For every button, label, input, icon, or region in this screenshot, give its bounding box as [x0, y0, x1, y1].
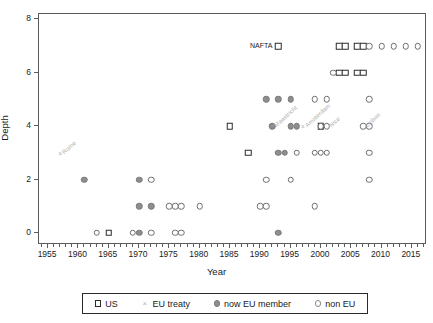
data-point-nonue [366, 96, 373, 103]
data-point-us [275, 43, 282, 50]
data-point-nonue [263, 176, 270, 183]
x-axis-tick-label: 1965 [98, 249, 117, 259]
x-axis-minor-tick [53, 244, 54, 247]
x-axis-minor-tick [223, 244, 224, 247]
x-axis-tick-label: 2010 [371, 249, 390, 259]
x-axis-minor-tick [144, 244, 145, 247]
x-axis-minor-tick [120, 244, 121, 247]
x-axis-minor-tick [132, 244, 133, 247]
y-axis-tick [34, 232, 38, 233]
data-point-nonue [390, 43, 397, 50]
x-axis-tick-label: 2000 [310, 249, 329, 259]
x-axis-tick [411, 244, 412, 248]
x-axis-minor-tick [253, 244, 254, 247]
x-axis-tick-label: 2015 [401, 249, 420, 259]
y-axis-title: Depth [0, 115, 10, 140]
y-axis-tick-label: 0 [26, 227, 31, 237]
x-axis-minor-tick [271, 244, 272, 247]
x-axis-minor-tick [65, 244, 66, 247]
x-axis-tick-label: 1975 [159, 249, 178, 259]
legend-item-us: US [95, 299, 118, 309]
x-axis-minor-tick [265, 244, 266, 247]
data-point-nonue [287, 176, 294, 183]
data-point-nonue [312, 96, 319, 103]
y-axis-tick [34, 179, 38, 180]
x-axis-tick [350, 244, 351, 248]
x-axis-minor-tick [393, 244, 394, 247]
legend-marker-cross-icon [141, 300, 148, 307]
legend-item-nonue: non EU [315, 299, 356, 309]
annotation-nafta: NAFTA [250, 42, 272, 49]
y-axis-tick [34, 125, 38, 126]
data-point-nonue [148, 230, 155, 237]
x-axis-tick [47, 244, 48, 248]
x-axis-minor-tick [356, 244, 357, 247]
x-axis-minor-tick [205, 244, 206, 247]
x-axis-tick [381, 244, 382, 248]
data-point-nonue [378, 43, 385, 50]
data-point-eumem [287, 96, 294, 103]
y-axis-tick [34, 72, 38, 73]
x-axis-minor-tick [374, 244, 375, 247]
x-axis-minor-tick [417, 244, 418, 247]
x-axis-minor-tick [156, 244, 157, 247]
x-axis-minor-tick [338, 244, 339, 247]
x-axis-minor-tick [399, 244, 400, 247]
x-axis-tick-label: 1990 [250, 249, 269, 259]
x-axis-minor-tick [102, 244, 103, 247]
legend-marker-open-circle-icon [315, 300, 322, 307]
data-point-nonue [366, 150, 373, 157]
data-point-us [105, 230, 112, 237]
data-point-nonue [148, 176, 155, 183]
x-axis-title: Year [0, 266, 433, 277]
x-axis-minor-tick [211, 244, 212, 247]
x-axis-tick [138, 244, 139, 248]
y-axis-tick-label: 6 [26, 67, 31, 77]
x-axis-minor-tick [241, 244, 242, 247]
scatter-plot-figure: Depth Year 19551960196519701975198019851… [0, 0, 433, 323]
legend-item-treaty: EU treaty [141, 299, 190, 309]
data-point-nonue [403, 43, 410, 50]
x-axis-minor-tick [90, 244, 91, 247]
y-axis-tick [34, 18, 38, 19]
data-point-nonue [178, 230, 185, 237]
x-axis-minor-tick [83, 244, 84, 247]
x-axis-minor-tick [126, 244, 127, 247]
data-point-nonue [324, 150, 331, 157]
x-axis-minor-tick [71, 244, 72, 247]
x-axis-minor-tick [405, 244, 406, 247]
x-axis-minor-tick [368, 244, 369, 247]
x-axis-tick-label: 1960 [68, 249, 87, 259]
x-axis-tick [290, 244, 291, 248]
plot-area [38, 13, 426, 244]
data-point-nonue [130, 230, 137, 237]
x-axis-minor-tick [387, 244, 388, 247]
x-axis-tick [77, 244, 78, 248]
data-point-us [227, 123, 234, 130]
x-axis-tick [199, 244, 200, 248]
x-axis-tick-label: 1955 [38, 249, 57, 259]
data-point-eumem [136, 176, 143, 183]
data-point-nonue [366, 176, 373, 183]
x-axis-tick-label: 1985 [220, 249, 239, 259]
legend-label: now EU member [224, 299, 291, 309]
data-point-nonue [366, 43, 373, 50]
x-axis-minor-tick [187, 244, 188, 247]
x-axis-minor-tick [174, 244, 175, 247]
legend-marker-open-square-icon [95, 300, 102, 307]
y-axis-tick-label: 2 [26, 174, 31, 184]
legend-label: non EU [325, 299, 355, 309]
data-point-nonue [415, 43, 422, 50]
data-point-nonue [330, 70, 337, 77]
y-axis-tick-label: 4 [26, 120, 31, 130]
data-point-eumem [275, 230, 282, 237]
data-point-eumem [263, 96, 270, 103]
data-point-eumem [81, 176, 88, 183]
x-axis-minor-tick [247, 244, 248, 247]
x-axis-tick [320, 244, 321, 248]
data-point-us [245, 150, 252, 157]
x-axis-minor-tick [423, 244, 424, 247]
x-axis-tick-label: 2005 [341, 249, 360, 259]
x-axis-minor-tick [41, 244, 42, 247]
x-axis-minor-tick [326, 244, 327, 247]
